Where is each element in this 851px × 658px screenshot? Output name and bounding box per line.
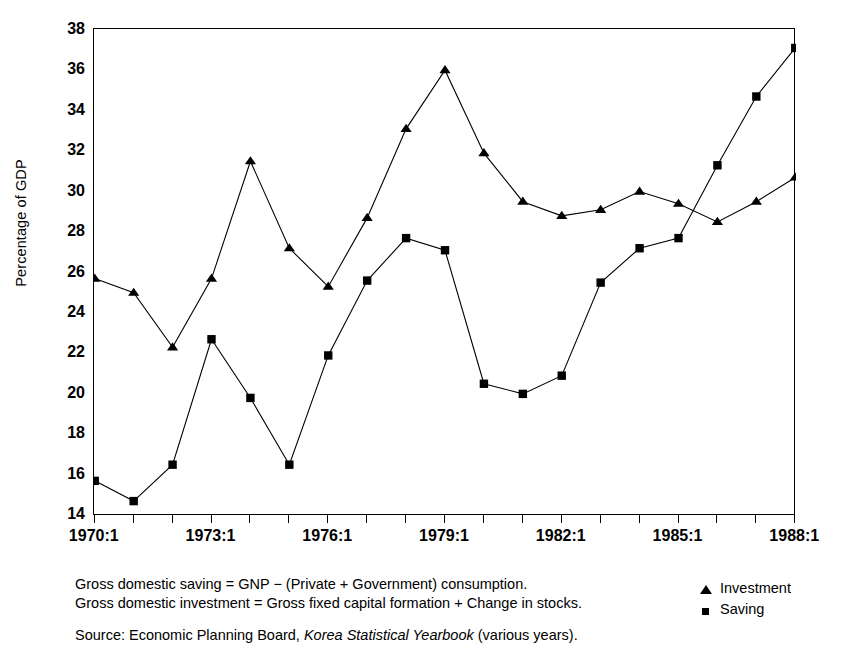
triangle-marker-icon xyxy=(700,583,712,595)
data-point-investment xyxy=(362,213,373,221)
plot-area xyxy=(93,28,795,515)
x-axis: 1970:11973:11976:11979:11982:11985:11988… xyxy=(93,515,795,525)
data-point-saving xyxy=(129,497,137,505)
data-point-investment xyxy=(94,273,100,281)
data-point-saving xyxy=(94,477,99,485)
x-axis-tick-mark xyxy=(327,515,328,523)
source-publication-title: Korea Statistical Yearbook xyxy=(304,627,474,643)
y-axis-tick-labels: 14161820222426283032343638 xyxy=(40,28,85,515)
x-axis-tick-label: 1988:1 xyxy=(769,527,819,545)
data-point-investment xyxy=(439,65,450,73)
data-point-investment xyxy=(400,124,411,132)
data-point-saving xyxy=(713,161,721,169)
data-point-saving xyxy=(246,394,254,402)
y-axis-tick-label: 22 xyxy=(45,344,85,360)
x-axis-tick-mark xyxy=(211,515,212,523)
note-line-saving-definition: Gross domestic saving = GNP − (Private +… xyxy=(75,575,665,594)
y-axis-tick-label: 36 xyxy=(45,61,85,77)
y-axis-tick-label: 16 xyxy=(45,466,85,482)
source-line: Source: Economic Planning Board, Korea S… xyxy=(75,626,665,645)
x-axis-tick-mark xyxy=(366,515,367,523)
data-point-saving xyxy=(635,244,643,252)
data-point-saving xyxy=(324,351,332,359)
x-axis-tick-mark xyxy=(444,515,445,523)
data-point-investment xyxy=(206,273,217,281)
source-suffix: (various years). xyxy=(474,627,578,643)
chart-legend: InvestmentSaving xyxy=(700,578,840,620)
data-point-saving xyxy=(596,278,604,286)
data-point-investment xyxy=(595,205,606,213)
x-axis-tick-mark xyxy=(483,515,484,523)
series-canvas xyxy=(94,29,796,516)
legend-label: Saving xyxy=(720,599,764,620)
data-point-saving xyxy=(674,234,682,242)
y-axis-tick-label: 28 xyxy=(45,223,85,239)
x-axis-tick-label: 1982:1 xyxy=(536,527,586,545)
x-axis-tick-mark xyxy=(249,515,250,523)
y-axis-tick-label: 24 xyxy=(45,304,85,320)
legend-item-saving: Saving xyxy=(700,599,840,620)
x-axis-tick-mark xyxy=(561,515,562,523)
x-axis-tick-mark xyxy=(522,515,523,523)
x-axis-tick-mark xyxy=(288,515,289,523)
x-axis-tick-mark xyxy=(133,515,134,523)
data-point-saving xyxy=(207,335,215,343)
data-point-investment xyxy=(284,243,295,251)
series-line-investment xyxy=(95,70,796,347)
x-axis-tick-mark xyxy=(600,515,601,523)
x-axis-tick-mark xyxy=(639,515,640,523)
data-point-saving xyxy=(363,276,371,284)
y-axis-tick-label: 20 xyxy=(45,385,85,401)
data-point-saving xyxy=(285,460,293,468)
data-point-investment xyxy=(167,342,178,350)
data-point-saving xyxy=(441,246,449,254)
chart-figure: Percentage of GDP 1416182022242628303234… xyxy=(0,0,851,658)
square-marker-icon xyxy=(700,604,712,616)
y-axis-tick-label: 18 xyxy=(45,425,85,441)
x-axis-tick-mark xyxy=(172,515,173,523)
data-point-investment xyxy=(634,187,645,195)
y-axis-tick-label: 38 xyxy=(45,21,85,37)
data-point-saving xyxy=(791,44,796,52)
data-point-saving xyxy=(519,390,527,398)
data-point-saving xyxy=(168,460,176,468)
y-axis-tick-label: 34 xyxy=(45,102,85,118)
x-axis-tick-label: 1979:1 xyxy=(419,527,469,545)
x-axis-tick-label: 1976:1 xyxy=(302,527,352,545)
data-point-investment xyxy=(751,197,762,205)
x-axis-tick-label: 1970:1 xyxy=(69,527,119,545)
data-point-investment xyxy=(478,148,489,156)
x-axis-tick-mark xyxy=(755,515,756,523)
x-axis-tick-mark xyxy=(678,515,679,523)
y-axis-tick-label: 26 xyxy=(45,264,85,280)
legend-item-investment: Investment xyxy=(700,578,840,599)
data-point-saving xyxy=(480,380,488,388)
data-point-saving xyxy=(752,92,760,100)
data-point-investment xyxy=(712,217,723,225)
x-axis-tick-mark xyxy=(716,515,717,523)
y-axis-tick-label: 32 xyxy=(45,142,85,158)
y-axis-title: Percentage of GDP xyxy=(13,23,29,423)
x-axis-tick-mark xyxy=(405,515,406,523)
source-prefix: Source: Economic Planning Board, xyxy=(75,627,304,643)
data-point-investment xyxy=(790,172,796,180)
data-point-saving xyxy=(402,234,410,242)
x-axis-tick-mark xyxy=(794,515,795,523)
data-point-investment xyxy=(517,197,528,205)
legend-label: Investment xyxy=(720,578,791,599)
x-axis-tick-label: 1973:1 xyxy=(186,527,236,545)
x-axis-tick-mark xyxy=(94,515,95,523)
y-axis-tick-label: 30 xyxy=(45,183,85,199)
data-point-investment xyxy=(245,156,256,164)
data-point-saving xyxy=(558,371,566,379)
y-axis-tick-label: 14 xyxy=(45,506,85,522)
series-line-saving xyxy=(95,48,796,501)
note-line-investment-definition: Gross domestic investment = Gross fixed … xyxy=(75,594,665,613)
chart-notes: Gross domestic saving = GNP − (Private +… xyxy=(75,575,665,645)
x-axis-tick-label: 1985:1 xyxy=(653,527,703,545)
